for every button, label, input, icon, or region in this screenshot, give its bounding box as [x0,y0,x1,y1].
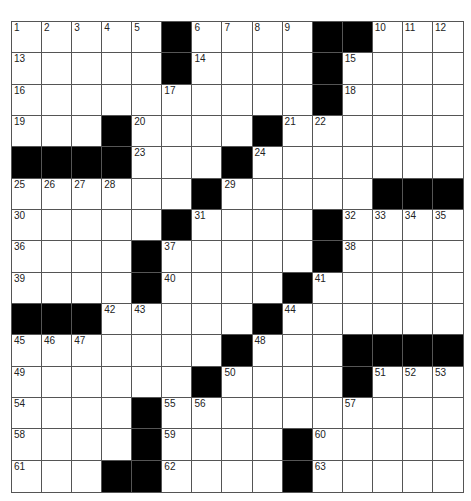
grid-cell[interactable] [42,116,72,147]
grid-cell[interactable] [403,241,433,272]
grid-cell[interactable] [253,210,283,241]
grid-cell[interactable] [373,398,403,429]
grid-cell[interactable]: 38 [343,241,373,272]
grid-cell[interactable] [102,210,132,241]
grid-cell[interactable] [343,429,373,460]
grid-cell[interactable]: 2 [42,22,72,53]
grid-cell[interactable]: 63 [313,461,343,492]
grid-cell[interactable] [72,367,102,398]
grid-cell[interactable]: 11 [403,22,433,53]
grid-cell[interactable]: 43 [132,304,162,335]
grid-cell[interactable] [253,53,283,84]
grid-cell[interactable] [403,398,433,429]
grid-cell[interactable] [222,429,252,460]
grid-cell[interactable]: 61 [12,461,42,492]
grid-cell[interactable]: 30 [12,210,42,241]
grid-cell[interactable] [373,85,403,116]
grid-cell[interactable] [313,304,343,335]
grid-cell[interactable] [72,53,102,84]
grid-cell[interactable] [283,85,313,116]
grid-cell[interactable]: 8 [253,22,283,53]
grid-cell[interactable]: 4 [102,22,132,53]
grid-cell[interactable] [42,461,72,492]
grid-cell[interactable] [313,398,343,429]
grid-cell[interactable]: 6 [192,22,222,53]
grid-cell[interactable] [72,273,102,304]
grid-cell[interactable] [72,210,102,241]
grid-cell[interactable] [72,85,102,116]
grid-cell[interactable] [403,53,433,84]
grid-cell[interactable] [222,273,252,304]
grid-cell[interactable] [403,304,433,335]
grid-cell[interactable] [433,461,463,492]
grid-cell[interactable]: 55 [162,398,192,429]
grid-cell[interactable] [192,85,222,116]
grid-cell[interactable] [343,116,373,147]
grid-cell[interactable] [373,53,403,84]
grid-cell[interactable]: 50 [222,367,252,398]
grid-cell[interactable] [343,273,373,304]
grid-cell[interactable] [102,335,132,366]
grid-cell[interactable] [42,53,72,84]
grid-cell[interactable]: 28 [102,179,132,210]
grid-cell[interactable] [433,85,463,116]
grid-cell[interactable] [222,210,252,241]
grid-cell[interactable]: 59 [162,429,192,460]
grid-cell[interactable] [343,179,373,210]
grid-cell[interactable] [132,210,162,241]
grid-cell[interactable] [253,241,283,272]
grid-cell[interactable] [403,147,433,178]
grid-cell[interactable] [253,179,283,210]
grid-cell[interactable] [162,116,192,147]
grid-cell[interactable] [433,241,463,272]
grid-cell[interactable]: 47 [72,335,102,366]
grid-cell[interactable] [72,241,102,272]
grid-cell[interactable]: 26 [42,179,72,210]
grid-cell[interactable] [433,53,463,84]
grid-cell[interactable] [102,241,132,272]
grid-cell[interactable] [253,367,283,398]
grid-cell[interactable] [132,335,162,366]
grid-cell[interactable] [192,461,222,492]
grid-cell[interactable]: 9 [283,22,313,53]
grid-cell[interactable] [162,304,192,335]
grid-cell[interactable] [403,116,433,147]
grid-cell[interactable]: 17 [162,85,192,116]
grid-cell[interactable]: 21 [283,116,313,147]
grid-cell[interactable]: 39 [12,273,42,304]
grid-cell[interactable]: 25 [12,179,42,210]
grid-cell[interactable]: 49 [12,367,42,398]
grid-cell[interactable]: 29 [222,179,252,210]
grid-cell[interactable] [403,85,433,116]
grid-cell[interactable] [373,273,403,304]
grid-cell[interactable]: 10 [373,22,403,53]
grid-cell[interactable]: 57 [343,398,373,429]
grid-cell[interactable] [72,429,102,460]
grid-cell[interactable]: 46 [42,335,72,366]
grid-cell[interactable] [192,304,222,335]
grid-cell[interactable] [343,147,373,178]
grid-cell[interactable] [102,85,132,116]
grid-cell[interactable] [433,273,463,304]
grid-cell[interactable] [192,147,222,178]
grid-cell[interactable] [373,429,403,460]
grid-cell[interactable]: 58 [12,429,42,460]
grid-cell[interactable] [162,335,192,366]
grid-cell[interactable] [192,116,222,147]
grid-cell[interactable]: 27 [72,179,102,210]
grid-cell[interactable] [433,304,463,335]
grid-cell[interactable] [192,335,222,366]
grid-cell[interactable] [42,398,72,429]
grid-cell[interactable] [373,461,403,492]
grid-cell[interactable] [283,241,313,272]
grid-cell[interactable] [433,429,463,460]
grid-cell[interactable]: 24 [253,147,283,178]
grid-cell[interactable] [313,179,343,210]
grid-cell[interactable]: 60 [313,429,343,460]
grid-cell[interactable]: 37 [162,241,192,272]
grid-cell[interactable] [72,116,102,147]
grid-cell[interactable] [132,85,162,116]
grid-cell[interactable]: 42 [102,304,132,335]
grid-cell[interactable] [72,398,102,429]
grid-cell[interactable] [283,147,313,178]
